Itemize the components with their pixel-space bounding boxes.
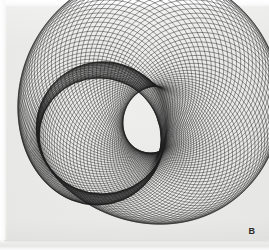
panel-label-b: B bbox=[249, 227, 256, 236]
scan-speck bbox=[110, 44, 112, 46]
scan-speck bbox=[206, 196, 208, 198]
figure-panel: B bbox=[0, 0, 269, 250]
circle-envelope-plot bbox=[0, 0, 269, 250]
scan-speck bbox=[225, 72, 227, 73]
circle-family-group bbox=[18, 0, 269, 224]
